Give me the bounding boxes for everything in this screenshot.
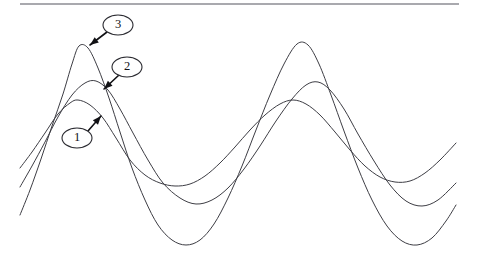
callout-label-3: 3 xyxy=(115,17,121,31)
waveform-diagram: 1 2 3 xyxy=(0,0,477,262)
callout-3[interactable]: 3 xyxy=(90,15,133,45)
callout-label-2: 2 xyxy=(124,59,130,73)
figure-root: 1 2 3 xyxy=(0,0,477,262)
callout-1[interactable]: 1 xyxy=(62,116,101,148)
callout-label-1: 1 xyxy=(74,130,80,144)
callout-2[interactable]: 2 xyxy=(104,57,142,89)
